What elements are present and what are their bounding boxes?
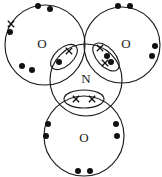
electron-dot-oxygen-bottom (45, 121, 51, 127)
electron-dot-oxygen-left (47, 6, 53, 12)
electron-dot-oxygen-right (127, 3, 133, 9)
diagram-canvas: ONOO (0, 0, 162, 177)
electron-dot-oxygen-bottom (87, 168, 93, 174)
electron-dot-oxygen-bottom (113, 121, 119, 127)
dot-and-cross-diagram: ONOO (0, 0, 162, 177)
electron-dot-oxygen-bottom (43, 133, 49, 139)
electron-dot-oxygen-bottom (114, 133, 120, 139)
atom-label-nitrogen-center: N (81, 71, 91, 86)
electron-dot-oxygen-right (152, 43, 158, 49)
atom-label-oxygen-bottom: O (79, 130, 88, 145)
electron-cross-oxygen-left (8, 21, 14, 27)
electron-dot-oxygen-bottom (75, 168, 81, 174)
electron-dot-bond-left (56, 59, 62, 65)
electron-dot-oxygen-right (149, 53, 155, 59)
electron-dot-oxygen-left (7, 29, 13, 35)
electron-dot-bond-right (108, 59, 114, 65)
atom-label-oxygen-right: O (121, 36, 130, 51)
atom-label-oxygen-left: O (37, 36, 46, 51)
electron-dot-oxygen-left (35, 3, 41, 9)
electron-dot-oxygen-left (29, 67, 35, 73)
electron-dot-bond-right (104, 53, 110, 59)
electron-cross-bond-right (102, 60, 108, 66)
electron-dot-oxygen-right (115, 3, 121, 9)
electron-dot-oxygen-left (19, 63, 25, 69)
electron-group (7, 3, 158, 174)
